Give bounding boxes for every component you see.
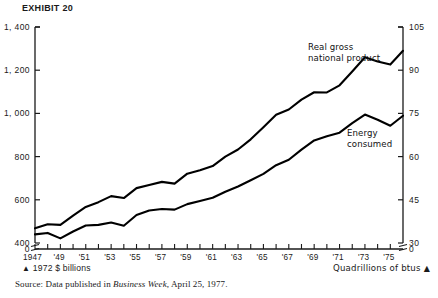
- series-label-gnp: Real gross national product Real grossna…: [308, 42, 380, 64]
- x-axis-tick-label: '73: [358, 253, 369, 262]
- x-axis-tick-label: '53: [104, 253, 115, 262]
- x-axis-tick-label: '69: [307, 253, 318, 262]
- x-axis-tick-label: '59: [180, 253, 191, 262]
- y-axis-tick-label: 1, 000: [0, 108, 30, 118]
- y-axis-tick-label: 1, 200: [0, 65, 30, 75]
- y2-axis-zero-label: 0: [409, 244, 414, 254]
- x-axis-tick-label: '57: [155, 253, 166, 262]
- y2-axis-tick-label: 90: [409, 65, 419, 75]
- x-axis-tick-label: '67: [282, 253, 293, 262]
- source-publication: Business Week: [113, 279, 167, 289]
- legend-left-label: 1972 $ billions: [33, 263, 91, 273]
- chart-page: EXHIBIT 20 Real gross national product R…: [0, 0, 438, 298]
- x-axis-tick-label: '61: [206, 253, 217, 262]
- y2-axis-tick-label: 60: [409, 152, 419, 162]
- y2-axis-tick-label: 45: [409, 195, 419, 205]
- x-axis-tick-label: '71: [333, 253, 344, 262]
- x-axis-tick-label: '51: [79, 253, 90, 262]
- x-axis-tick-label: '63: [231, 253, 242, 262]
- x-axis-tick-label: '49: [53, 253, 64, 262]
- source-note: Source: Data published in Business Week,…: [15, 279, 228, 289]
- x-axis-tick-label: 1947: [23, 253, 42, 262]
- series-label-energy: Energyconsumed: [347, 128, 392, 150]
- legend-right: Quadrillions of btus ▲: [333, 263, 430, 273]
- source-prefix: Source: Data published in: [15, 279, 113, 289]
- triangle-left-icon: ▲: [22, 264, 30, 273]
- y2-axis-tick-label: 75: [409, 108, 419, 118]
- legend-right-label: Quadrillions of btus: [333, 263, 421, 273]
- triangle-right-icon: ▲: [424, 264, 430, 273]
- source-suffix: , April 25, 1977.: [167, 279, 228, 289]
- y-axis-tick-label: 600: [0, 195, 30, 205]
- y2-axis-tick-label: 105: [409, 22, 424, 32]
- y-axis-tick-label: 800: [0, 152, 30, 162]
- y-axis-tick-label: 1, 400: [0, 22, 30, 32]
- x-axis-tick-label: '55: [130, 253, 141, 262]
- legend-left: ▲ 1972 $ billions: [22, 263, 91, 273]
- x-axis-tick-label: '75: [383, 253, 394, 262]
- x-axis-tick-label: '65: [256, 253, 267, 262]
